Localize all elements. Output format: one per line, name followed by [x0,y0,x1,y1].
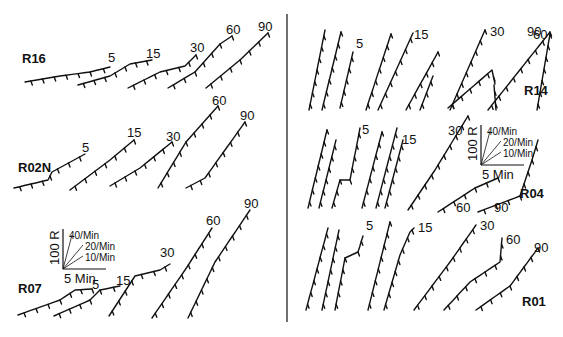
reinforcement-tick [341,102,343,106]
reinforcement-tick [115,73,117,77]
cumulative-record-trace [54,286,120,316]
reinforcement-tick [431,82,433,86]
reinforcement-tick [196,55,198,59]
reinforcement-tick [24,313,26,317]
reinforcement-tick [309,202,311,206]
session-label: 60 [506,232,520,247]
reinforcement-tick [194,133,196,137]
reinforcement-tick [396,168,398,172]
reinforcement-tick [391,34,393,38]
reinforcement-tick [233,236,235,240]
reinforcement-tick [418,195,420,199]
reinforcement-tick [115,156,117,160]
reinforcement-tick [336,304,338,308]
panel-label-r16: R16 [22,51,46,66]
cumulative-record-trace [414,225,476,310]
reinforcement-tick [386,94,388,98]
reinforcement-tick [75,186,77,190]
reinforcement-tick [332,157,334,161]
reinforcement-tick [415,94,417,98]
reinforcement-tick [195,72,197,76]
reinforcement-tick [238,132,240,136]
reinforcement-tick [240,226,242,230]
reinforcement-tick [326,234,328,238]
reinforcement-tick [464,195,466,199]
reinforcement-tick [466,239,468,243]
reinforcement-tick [432,63,434,67]
reinforcement-tick [94,81,96,85]
reinforcement-tick [412,230,414,234]
reinforcement-tick [370,179,372,183]
reinforcement-tick [347,80,349,84]
figure-canvas: R16515306090R02N515306090R07515306090R14… [0,0,563,337]
reinforcement-tick [189,62,191,66]
reinforcement-tick [124,148,126,152]
reinforcement-tick [20,187,22,191]
reinforcement-tick [334,202,336,206]
reinforcement-tick [510,286,512,290]
y-scale-label: 100 R [47,230,62,265]
cumulative-record-trace [385,140,403,208]
reinforcement-tick [318,166,320,170]
reinforcement-tick [354,157,356,161]
reinforcement-tick [166,71,168,75]
reinforcement-tick [548,46,550,50]
reinforcement-tick [43,79,45,83]
reinforcement-tick [528,172,530,176]
reinforcement-tick [352,58,354,62]
reinforcement-tick [422,104,424,108]
reinforcement-tick [500,293,502,297]
panel-label-r01: R01 [522,294,546,309]
reinforcement-tick [450,145,452,149]
reinforcement-tick [462,83,464,87]
reinforcement-tick [58,169,60,173]
reinforcement-tick [103,69,105,73]
reinforcement-tick [368,104,370,108]
reinforcement-tick [219,257,221,261]
reinforcement-tick [132,281,134,285]
reinforcement-tick [320,202,322,206]
reinforcement-tick [323,191,325,195]
reinforcement-tick [324,36,326,40]
reinforcement-tick [401,61,403,65]
reinforcement-tick [221,76,223,80]
session-label: 5 [362,122,369,137]
x-scale-label: 5 Min [482,167,514,182]
reinforcement-tick [524,267,526,271]
reinforcement-tick [358,252,360,256]
reinforcement-tick [90,300,92,304]
reinforcement-tick [322,47,324,51]
reinforcement-tick [226,246,228,250]
reinforcement-tick [468,116,470,120]
reinforcement-tick [546,57,548,61]
reinforcement-tick [155,313,157,317]
reinforcement-tick [220,44,222,48]
reinforcement-tick [332,68,334,72]
reinforcement-tick [136,63,138,67]
reinforcement-tick [202,244,204,248]
cumulative-record-trace [109,264,170,316]
rate-label: 40/Min [487,126,517,137]
reinforcement-tick [373,167,375,171]
reinforcement-tick [492,105,494,109]
session-label: 15 [127,125,141,140]
reinforcement-tick [317,269,319,273]
reinforcement-tick [48,304,50,308]
reinforcement-tick [535,50,537,54]
reinforcement-tick [113,287,115,291]
cumulative-record-trace [152,228,212,318]
reinforcement-tick [169,294,171,298]
reinforcement-tick [200,181,202,185]
reinforcement-tick [333,259,335,263]
reinforcement-tick [182,275,184,279]
reinforcement-tick [202,290,204,294]
reinforcement-tick [134,140,136,144]
reinforcement-tick [175,284,177,288]
reinforcement-tick [326,293,328,297]
reinforcement-tick [391,83,393,87]
reinforcement-tick [399,157,401,161]
session-label: 30 [160,245,174,260]
session-label: 60 [212,93,226,108]
session-label: 15 [116,273,130,288]
reinforcement-tick [514,78,516,82]
